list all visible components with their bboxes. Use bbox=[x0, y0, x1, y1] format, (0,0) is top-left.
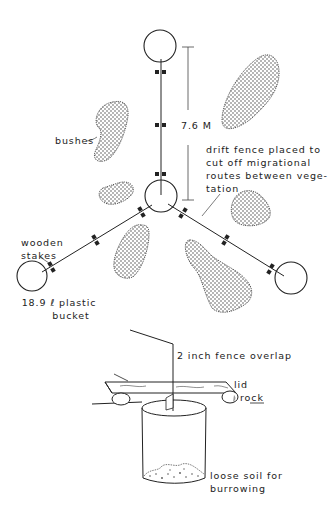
label-wooden-stakes-line-1: wooden bbox=[21, 236, 64, 249]
label-loose-soil-line-2: burrowing bbox=[210, 482, 283, 495]
bucket-top bbox=[144, 30, 176, 62]
bucket-bottom bbox=[143, 478, 205, 483]
label-fence-overlap: 2 inch fence overlap bbox=[177, 349, 292, 362]
label-bucket-line-1: 18.9 ℓ plastic bbox=[19, 296, 99, 309]
bush-right-lower bbox=[185, 240, 251, 312]
bush-large-top-right bbox=[222, 55, 279, 129]
label-bucket-line-2: bucket bbox=[31, 309, 111, 322]
lid-board bbox=[105, 382, 236, 393]
bush-right-mid bbox=[231, 191, 270, 226]
bush-small-left bbox=[99, 182, 133, 204]
leader-drift-fence bbox=[202, 194, 220, 216]
bush-left-lower bbox=[114, 225, 149, 278]
label-drift-fence-line-4: tation bbox=[206, 182, 328, 195]
label-drift-fence-line-1: drift fence placed to bbox=[206, 143, 328, 156]
label-wooden-stakes: wooden stakes bbox=[21, 236, 64, 262]
bucket-wall-left bbox=[142, 408, 143, 478]
bucket-left bbox=[17, 261, 47, 291]
label-bucket: 18.9 ℓ plastic bucket bbox=[19, 296, 99, 322]
label-loose-soil: loose soil for burrowing bbox=[210, 469, 283, 495]
label-measurement: 7.6 M bbox=[181, 119, 212, 132]
loose-soil bbox=[144, 464, 204, 476]
rock-left bbox=[112, 393, 130, 405]
label-loose-soil-line-1: loose soil for bbox=[210, 469, 283, 482]
label-wooden-stakes-line-2: stakes bbox=[21, 249, 64, 262]
bucket-right bbox=[275, 262, 307, 294]
label-drift-fence-line-2: cut off migrational bbox=[206, 156, 328, 169]
label-drift-fence: drift fence placed to cut off migrationa… bbox=[206, 143, 328, 195]
label-lid: lid bbox=[234, 378, 248, 391]
bucket-rim bbox=[142, 400, 206, 416]
bush-upper-left bbox=[94, 101, 128, 161]
label-drift-fence-line-3: routes between vege- bbox=[206, 169, 328, 182]
rock-right bbox=[222, 391, 238, 403]
bucket-wall-right bbox=[205, 408, 206, 478]
label-rock: rock bbox=[240, 391, 264, 404]
label-bushes: bushes bbox=[55, 134, 94, 147]
